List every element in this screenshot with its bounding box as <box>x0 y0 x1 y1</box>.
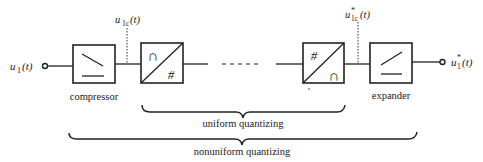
uniform-quantizing-label: uniform quantizing <box>203 118 285 129</box>
input-terminal-icon <box>43 64 48 69</box>
output-signal-sub: 1 <box>457 62 461 71</box>
compressor-label: compressor <box>70 91 119 102</box>
input-signal-base: u <box>10 60 16 72</box>
digital-symbol-icon: # <box>311 48 318 63</box>
output-signal-sup: * <box>457 53 461 62</box>
input-signal-arg: (t) <box>22 60 33 73</box>
digital-symbol-icon: # <box>168 67 175 82</box>
analog-symbol-icon: ∩ <box>148 48 159 64</box>
compressed-signal-arg: (t) <box>130 14 140 26</box>
adc-block: ∩ # <box>141 43 183 83</box>
compressed-signal-sub: 1c <box>122 19 130 28</box>
input-signal-label: u 1 (t) <box>10 60 33 75</box>
output-signal-arg: (t) <box>462 56 473 69</box>
nonuniform-quantizing-brace <box>69 132 417 145</box>
output-terminal-icon <box>440 60 445 65</box>
compressor-block <box>73 45 115 83</box>
output-signal-label: u * 1 (t) <box>451 53 473 71</box>
quantized-signal-arg: (t) <box>360 9 370 21</box>
uniform-quantizing-brace <box>142 105 345 118</box>
input-signal-sub: 1 <box>17 66 21 75</box>
dac-block: # ∩ <box>303 43 344 84</box>
speck <box>308 88 310 90</box>
nonuniform-quantizing-label: nonuniform quantizing <box>194 146 291 157</box>
quantized-signal-sub: 1c <box>351 14 359 23</box>
expander-block <box>370 43 412 83</box>
nonuniform-quantizing-diagram: u 1 (t) compressor u 1c (t) ∩ # # ∩ <box>0 0 483 162</box>
compressed-signal-base: u <box>115 14 120 25</box>
compressed-signal-label: u 1c (t) <box>115 14 140 28</box>
quantized-compressed-signal-label: u * 1c (t) <box>345 6 370 23</box>
quantized-signal-base: u <box>345 9 350 20</box>
expander-label: expander <box>372 90 411 101</box>
analog-symbol-icon: ∩ <box>329 68 340 84</box>
